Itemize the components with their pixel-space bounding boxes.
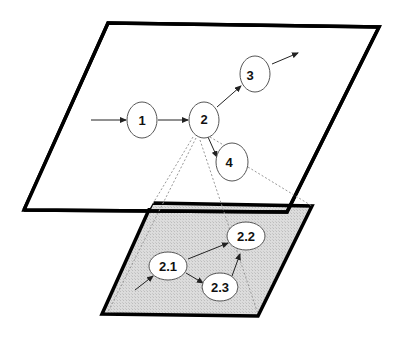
diagram-canvas: 1 2 3 4 2.1 2.2 2.3 <box>0 0 398 341</box>
node-2-1-label: 2.1 <box>159 259 177 274</box>
node-2-1: 2.1 <box>149 252 187 280</box>
node-2-label: 2 <box>200 112 207 127</box>
node-2-3: 2.3 <box>202 273 238 301</box>
node-4: 4 <box>216 143 248 181</box>
node-3-label: 3 <box>246 68 253 83</box>
node-2-2: 2.2 <box>227 222 265 250</box>
node-4-label: 4 <box>225 155 233 170</box>
node-2: 2 <box>189 102 219 138</box>
node-3: 3 <box>240 56 270 92</box>
node-2-3-label: 2.3 <box>211 280 229 295</box>
node-1-label: 1 <box>138 113 145 128</box>
lower-plane <box>102 203 312 316</box>
node-1: 1 <box>127 102 157 138</box>
node-2-2-label: 2.2 <box>237 229 255 244</box>
